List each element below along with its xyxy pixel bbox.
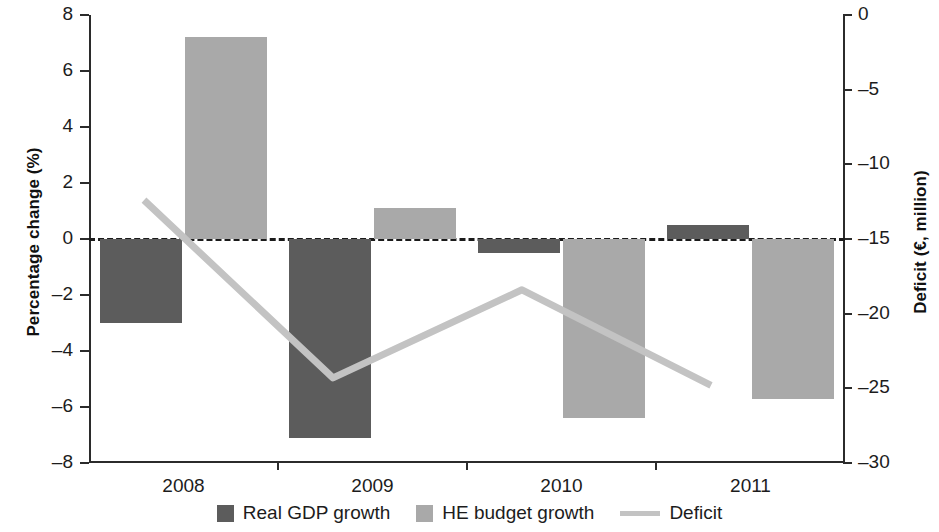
left-tick-label: 2: [33, 171, 73, 193]
left-tick-label: 6: [33, 59, 73, 81]
legend-label: HE budget growth: [442, 502, 594, 524]
legend-item: HE budget growth: [416, 502, 594, 524]
legend-item: Real GDP growth: [217, 502, 391, 524]
x-tick-label: 2009: [313, 475, 433, 497]
left-tick-mark: [80, 462, 89, 464]
right-tick-label: –10: [858, 152, 904, 174]
legend-label: Real GDP growth: [243, 502, 391, 524]
x-tick-label: 2008: [124, 475, 244, 497]
right-tick-label: –15: [858, 227, 904, 249]
left-tick-mark: [80, 406, 89, 408]
right-tick-label: –20: [858, 302, 904, 324]
chart-legend: Real GDP growthHE budget growthDeficit: [0, 498, 939, 528]
left-tick-mark: [80, 294, 89, 296]
left-tick-mark: [80, 126, 89, 128]
plot-area: [89, 15, 845, 463]
left-tick-label: –4: [33, 339, 73, 361]
legend-swatch: [217, 505, 234, 522]
left-tick-mark: [80, 70, 89, 72]
right-tick-label: –5: [858, 78, 904, 100]
legend-line-marker: [620, 511, 660, 516]
right-tick-label: –25: [858, 376, 904, 398]
chart-figure: Percentage change (%) Deficit (€, millio…: [0, 0, 939, 532]
x-tick-label: 2011: [691, 475, 811, 497]
x-tick-label: 2010: [502, 475, 622, 497]
left-tick-mark: [80, 238, 89, 240]
left-tick-label: 4: [33, 115, 73, 137]
legend-swatch: [416, 505, 433, 522]
left-tick-label: 0: [33, 227, 73, 249]
line-series-deficit: [89, 15, 845, 463]
left-tick-mark: [80, 14, 89, 16]
left-tick-label: –2: [33, 283, 73, 305]
left-tick-label: –6: [33, 395, 73, 417]
right-tick-label: –30: [858, 451, 904, 473]
left-tick-label: –8: [33, 451, 73, 473]
legend-item: Deficit: [620, 502, 722, 524]
legend-label: Deficit: [669, 502, 722, 524]
left-tick-mark: [80, 350, 89, 352]
right-axis-title: Deficit (€, million): [911, 122, 931, 362]
left-tick-mark: [80, 182, 89, 184]
left-tick-label: 8: [33, 3, 73, 25]
right-tick-label: 0: [858, 3, 904, 25]
deficit-polyline: [144, 200, 711, 385]
